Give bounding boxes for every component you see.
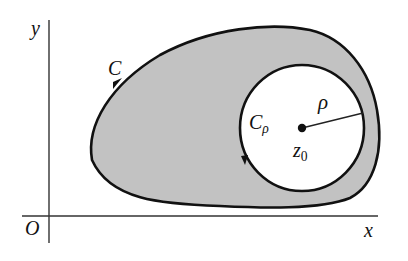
y-axis-label: y	[31, 18, 40, 38]
y-axis-label-text: y	[31, 17, 40, 39]
origin-label: O	[25, 218, 39, 238]
radius-label: ρ	[318, 92, 328, 113]
center-label-main: z	[293, 139, 301, 161]
inner-circle-label-sub: ρ	[262, 121, 269, 136]
inner-circle-label: Cρ	[249, 112, 269, 136]
inner-circle-label-main: C	[249, 111, 262, 133]
outer-contour-label-text: C	[108, 57, 121, 79]
x-axis-label: x	[364, 220, 373, 240]
outer-contour-label: C	[108, 58, 121, 78]
center-label-sub: 0	[301, 149, 308, 164]
center-label: z0	[293, 140, 308, 164]
diagram-canvas	[0, 0, 408, 261]
radius-label-text: ρ	[318, 90, 328, 114]
contour-diagram: y x O C Cρ ρ z0	[0, 0, 408, 261]
origin-label-text: O	[25, 217, 39, 239]
x-axis-label-text: x	[364, 219, 373, 241]
center-point-z0	[298, 124, 306, 132]
